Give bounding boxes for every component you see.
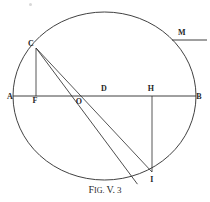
point-label-B: B <box>196 93 202 101</box>
figure-container: A F O D H B C I M FIG.V.3 <box>0 0 210 202</box>
marker-label-M: M <box>178 29 186 37</box>
caption-number: 3 <box>117 185 122 195</box>
caption-fig-word: FIG. <box>89 184 105 195</box>
point-label-D: D <box>101 85 107 93</box>
point-label-A: A <box>7 93 13 101</box>
point-label-C: C <box>28 40 34 48</box>
figure-caption: FIG.V.3 <box>0 184 210 195</box>
caption-fig-rest: IG. <box>94 186 104 195</box>
point-label-I: I <box>150 176 153 184</box>
point-label-H: H <box>148 85 154 93</box>
segment-chord-COI <box>22 48 151 184</box>
point-label-F: F <box>32 97 37 105</box>
point-label-O: O <box>76 98 82 106</box>
segment-chord-CDI <box>36 48 152 172</box>
caption-volume: V. <box>107 184 115 195</box>
